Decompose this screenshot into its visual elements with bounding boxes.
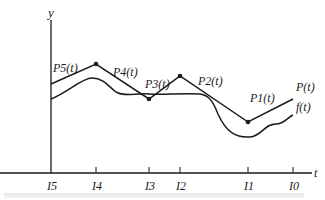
figure: y t I5 I4 I3 I2 I1 I0 bbox=[0, 0, 325, 200]
chart-canvas: y t I5 I4 I3 I2 I1 I0 bbox=[0, 0, 325, 200]
node-i3 bbox=[147, 97, 152, 102]
caption-text-cropped bbox=[4, 193, 304, 198]
curve-f bbox=[51, 78, 293, 137]
t-axis-label: t bbox=[314, 166, 318, 180]
node-i1 bbox=[246, 120, 251, 125]
figure-caption-cropped bbox=[0, 191, 325, 200]
segment-label-p4: P4(t) bbox=[112, 65, 138, 79]
segment-label-p3: P3(t) bbox=[144, 77, 170, 91]
segment-labels: P5(t) P4(t) P3(t) P2(t) P1(t) P(t) f(t) bbox=[52, 61, 315, 114]
node-i4 bbox=[94, 62, 99, 67]
segment-label-p2: P2(t) bbox=[197, 74, 223, 88]
y-axis-label: y bbox=[46, 5, 54, 20]
tick-marks bbox=[96, 167, 293, 173]
node-i2 bbox=[178, 74, 183, 79]
curve-label-f: f(t) bbox=[296, 100, 311, 114]
segment-label-p1: P1(t) bbox=[249, 91, 275, 105]
segment-label-p5: P5(t) bbox=[52, 61, 78, 75]
curve-label-p: P(t) bbox=[295, 80, 315, 94]
